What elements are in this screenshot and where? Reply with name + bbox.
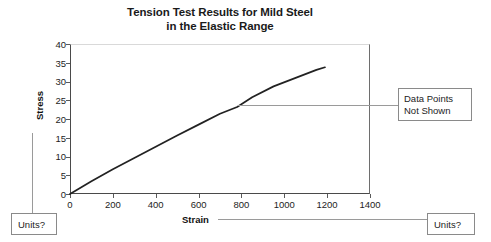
leader-line-units-right	[218, 219, 427, 220]
chart-title: Tension Test Results for Mild Steel in t…	[60, 5, 380, 33]
chart-title-line-1: Tension Test Results for Mild Steel	[60, 5, 380, 19]
x-axis-title: Strain	[182, 214, 209, 225]
x-tick-mark	[199, 194, 200, 198]
x-tick-label: 800	[221, 200, 261, 210]
callout-line-2: Not Shown	[404, 105, 471, 117]
callout-units-y-axis: Units?	[11, 213, 57, 235]
y-tick-label: 10	[44, 152, 66, 161]
x-tick-label: 1200	[307, 200, 347, 210]
chart-figure: Tension Test Results for Mild Steel in t…	[0, 0, 491, 242]
chart-title-line-2: in the Elastic Range	[60, 19, 380, 33]
plot-area	[70, 44, 370, 194]
x-tick-mark	[284, 194, 285, 198]
x-tick-mark	[370, 194, 371, 198]
y-tick-mark	[66, 44, 70, 45]
x-tick-label: 1000	[264, 200, 304, 210]
y-tick-mark	[66, 119, 70, 120]
y-tick-mark	[66, 175, 70, 176]
y-tick-label: 20	[44, 115, 66, 124]
y-tick-label: 25	[44, 96, 66, 105]
x-tick-label: 1400	[350, 200, 390, 210]
callout-line-1: Data Points	[404, 93, 471, 105]
leader-line-units-left	[32, 133, 33, 213]
y-tick-label: 5	[44, 171, 66, 180]
x-tick-label: 600	[179, 200, 219, 210]
callout-data-points-not-shown: Data Points Not Shown	[398, 88, 472, 121]
y-tick-mark	[66, 82, 70, 83]
y-tick-mark	[66, 138, 70, 139]
x-tick-mark	[327, 194, 328, 198]
x-tick-mark	[113, 194, 114, 198]
x-tick-label: 200	[93, 200, 133, 210]
y-tick-label: 15	[44, 134, 66, 143]
y-tick-mark	[66, 100, 70, 101]
leader-line-data-points	[238, 105, 398, 106]
x-tick-mark	[70, 194, 71, 198]
y-tick-mark	[66, 63, 70, 64]
x-tick-label: 0	[50, 200, 90, 210]
y-axis-title: Stress	[34, 91, 45, 120]
x-tick-label: 400	[136, 200, 176, 210]
y-tick-mark	[66, 157, 70, 158]
y-tick-label: 0	[44, 190, 66, 199]
y-tick-label: 30	[44, 77, 66, 86]
x-tick-mark	[156, 194, 157, 198]
x-tick-mark	[241, 194, 242, 198]
y-tick-label: 35	[44, 59, 66, 68]
callout-units-x-axis: Units?	[427, 213, 475, 235]
y-tick-label: 40	[44, 40, 66, 49]
